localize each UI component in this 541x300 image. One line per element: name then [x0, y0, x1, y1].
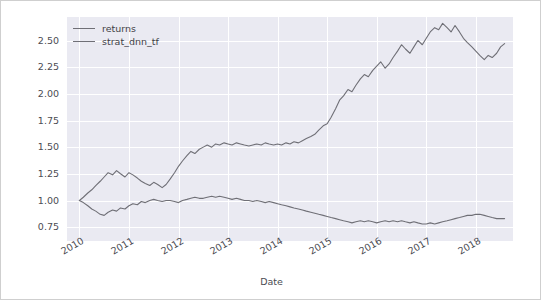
y-tick-label: 0.75	[1, 221, 59, 232]
legend-label: strat_dnn_tf	[102, 36, 159, 47]
legend-item-returns: returns	[73, 22, 159, 35]
y-tick-label: 1.25	[1, 168, 59, 179]
chart-legend: returns strat_dnn_tf	[69, 20, 163, 50]
y-tick-label: 2.00	[1, 88, 59, 99]
y-tick-label: 1.00	[1, 195, 59, 206]
series-layer	[67, 17, 513, 241]
legend-item-strat-dnn-tf: strat_dnn_tf	[73, 35, 159, 48]
series-line-returns	[79, 196, 504, 224]
legend-label: returns	[102, 23, 136, 34]
chart-figure: 0.751.001.251.501.752.002.252.50 2010201…	[0, 0, 541, 300]
y-tick-label: 1.50	[1, 141, 59, 152]
y-tick-label: 2.50	[1, 35, 59, 46]
legend-line-icon	[73, 28, 95, 29]
x-axis-label: Date	[1, 276, 541, 287]
legend-line-icon	[73, 41, 95, 42]
plot-area	[67, 17, 513, 241]
y-tick-label: 2.25	[1, 61, 59, 72]
y-tick-label: 1.75	[1, 115, 59, 126]
x-tick-label: 2010	[59, 235, 85, 257]
